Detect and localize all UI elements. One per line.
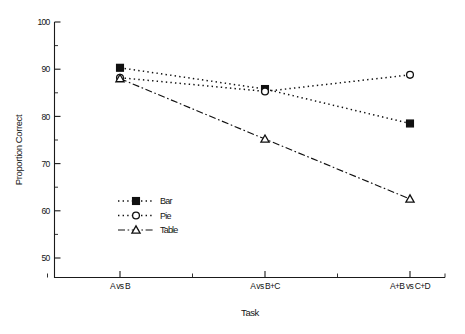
x-tick-label: A vs B — [110, 281, 131, 291]
data-point-table — [261, 135, 269, 142]
x-axis-title: Task — [241, 307, 260, 318]
x-axis-minor-ticks — [48, 274, 446, 278]
data-point-pie — [262, 88, 269, 95]
y-tick-label: 90 — [41, 64, 50, 74]
axis-lines — [55, 22, 446, 278]
data-point-bar — [117, 64, 124, 71]
line-chart: 1009080706050 A vs BA vs B+CA+B vs C+D P… — [0, 0, 465, 334]
x-tick-label: A+B vs C+D — [390, 281, 430, 291]
series-layer — [116, 64, 414, 202]
legend-item-pie: Pie — [118, 211, 171, 221]
series-line-bar — [120, 68, 410, 124]
legend-label: Bar — [160, 196, 172, 206]
y-tick-label: 80 — [41, 112, 50, 122]
data-point-bar — [407, 120, 414, 127]
y-axis-tick-labels: 1009080706050 — [37, 17, 50, 263]
x-axis-ticks — [120, 271, 410, 278]
series-pie — [117, 71, 414, 94]
legend-marker-bar — [133, 198, 140, 205]
y-tick-label: 50 — [41, 253, 50, 263]
y-tick-label: 60 — [41, 206, 50, 216]
x-axis-tick-labels: A vs BA vs B+CA+B vs C+D — [110, 281, 430, 291]
legend-marker-pie — [133, 212, 140, 219]
legend-item-bar: Bar — [118, 196, 172, 206]
chart-legend: BarPieTable — [118, 196, 178, 235]
y-axis-title: Proportion Correct — [13, 114, 24, 185]
y-tick-label: 70 — [41, 159, 50, 169]
legend-label: Table — [160, 225, 178, 235]
legend-label: Pie — [160, 211, 171, 221]
data-point-pie — [407, 71, 414, 78]
legend-item-table: Table — [118, 225, 178, 235]
y-tick-label: 100 — [37, 17, 50, 27]
data-point-table — [406, 195, 414, 202]
x-tick-label: A vs B+C — [250, 281, 280, 291]
chart-figure: 1009080706050 A vs BA vs B+CA+B vs C+D P… — [0, 0, 465, 334]
